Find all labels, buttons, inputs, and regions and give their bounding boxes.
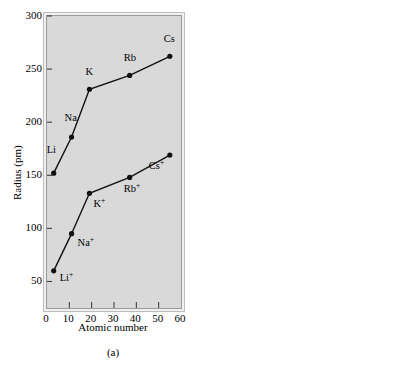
- data-point: [167, 54, 172, 59]
- data-point-label: Rb: [124, 53, 136, 64]
- data-point: [87, 191, 92, 196]
- data-point: [69, 231, 74, 236]
- y-tick-label: 100: [12, 222, 42, 233]
- y-axis-title-a: Radius (pm): [12, 145, 23, 200]
- data-point: [87, 87, 92, 92]
- series-line: [54, 155, 170, 271]
- y-tick-label: 300: [12, 10, 42, 21]
- data-point-label: Cs: [164, 34, 175, 45]
- panel-a: 50100150200250300 0102030405060 LiNaKRbC…: [0, 0, 200, 373]
- y-tick-label: 50: [12, 275, 42, 286]
- panel-caption-a: (a): [93, 347, 133, 358]
- y-tick-label: 200: [12, 116, 42, 127]
- data-point: [127, 73, 132, 78]
- data-point: [69, 134, 74, 139]
- data-point-label: K+: [93, 199, 105, 210]
- x-axis-title-a: Atomic number: [46, 322, 180, 333]
- data-point-label: Na+: [78, 238, 94, 249]
- y-tick-label: 250: [12, 63, 42, 74]
- data-point-label: Rb+: [124, 184, 141, 195]
- data-point-label: Li+: [60, 273, 74, 284]
- data-point-label: Cs+: [149, 161, 164, 172]
- data-point-label: Li: [47, 145, 56, 156]
- data-point: [51, 171, 56, 176]
- data-point-label: K: [85, 67, 93, 78]
- figure-atomic-ionic-radii: 50100150200250300 0102030405060 LiNaKRbC…: [0, 0, 400, 373]
- data-point: [167, 152, 172, 157]
- data-point: [51, 268, 56, 273]
- data-point-label: Na: [65, 113, 77, 124]
- panel-b: 50100150200250300 0102030405060 F−Cl−Br−…: [200, 0, 400, 373]
- data-point: [127, 175, 132, 180]
